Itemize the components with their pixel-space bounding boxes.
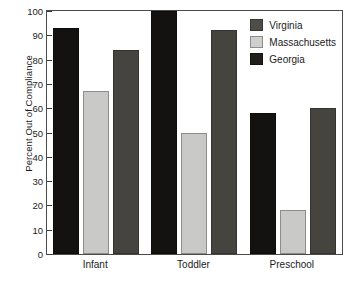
y-axis-tick-label: 90 [32, 30, 43, 41]
legend-item-georgia: Georgia [250, 53, 336, 65]
bar-virginia-preschool [250, 113, 276, 254]
bar-massachusetts-infant [83, 91, 109, 254]
y-axis-tick-mark [47, 84, 52, 85]
y-axis-tick-mark [47, 230, 52, 231]
y-axis-tick-mark [47, 205, 52, 206]
bar-massachusetts-preschool [280, 210, 306, 254]
bar-georgia-infant [113, 50, 139, 254]
bar-virginia-infant [53, 28, 79, 254]
y-axis-tick-label: 0 [38, 249, 43, 260]
y-axis-tick-label: 50 [32, 127, 43, 138]
legend-item-massachusetts: Massachusetts [250, 36, 336, 48]
legend-swatch-icon [250, 36, 263, 48]
y-axis-tick-label: 70 [32, 78, 43, 89]
y-axis-tick-mark [47, 11, 52, 12]
y-axis-tick-label: 10 [32, 224, 43, 235]
y-axis-tick-label: 80 [32, 54, 43, 65]
bar-massachusetts-toddler [181, 133, 207, 255]
legend-swatch-icon [250, 53, 263, 65]
bar-georgia-preschool [310, 108, 336, 254]
legend-label: Virginia [269, 20, 302, 31]
y-axis-tick-mark [47, 133, 52, 134]
bar-group [145, 11, 243, 254]
x-axis-label-infant: Infant [46, 259, 144, 270]
y-axis-tick-mark [47, 108, 52, 109]
x-axis-label-preschool: Preschool [243, 259, 341, 270]
y-axis-tick-mark [47, 181, 52, 182]
y-axis-tick-label: 30 [32, 176, 43, 187]
y-axis-tick-mark [47, 157, 52, 158]
bar-chart: Percent Out of Compliance VirginiaMassac… [0, 0, 352, 288]
legend-item-virginia: Virginia [250, 19, 336, 31]
y-axis-tick-label: 20 [32, 200, 43, 211]
y-axis-tick-label: 100 [27, 6, 43, 17]
plot-frame: VirginiaMassachusettsGeorgia 01020304050… [46, 10, 343, 255]
y-axis-tick-mark [47, 254, 52, 255]
bar-virginia-toddler [151, 11, 177, 254]
y-axis-tick-label: 40 [32, 151, 43, 162]
legend-label: Georgia [269, 54, 305, 65]
bar-georgia-toddler [211, 30, 237, 254]
legend-label: Massachusetts [269, 37, 336, 48]
bar-group [47, 11, 145, 254]
y-axis-tick-mark [47, 60, 52, 61]
chart-legend: VirginiaMassachusettsGeorgia [250, 19, 336, 65]
legend-swatch-icon [250, 19, 263, 31]
y-axis-tick-label: 60 [32, 103, 43, 114]
y-axis-tick-mark [47, 35, 52, 36]
x-axis-label-toddler: Toddler [144, 259, 242, 270]
